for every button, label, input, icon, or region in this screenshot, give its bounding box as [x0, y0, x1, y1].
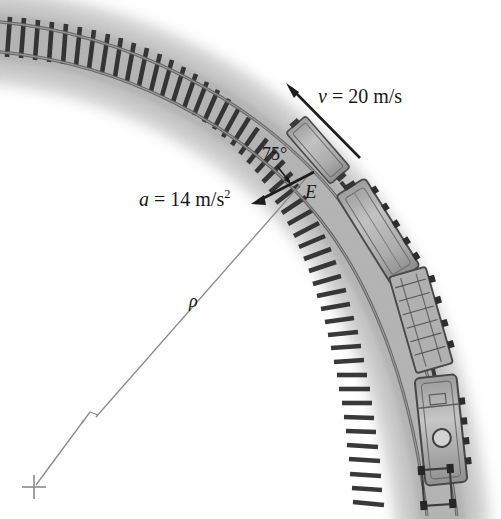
- velocity-symbol: v: [318, 85, 327, 107]
- radius-break-marker: [82, 412, 98, 423]
- angle-label: 75°: [262, 145, 287, 163]
- point-e-label: E: [305, 182, 317, 201]
- radius-line-lower: [36, 420, 84, 485]
- velocity-equals: =: [327, 85, 348, 107]
- physics-figure-train-curve: v = 20 m/s a = 14 m/s2 75° E ρ: [0, 0, 501, 519]
- radius-line-group: [22, 170, 313, 499]
- angle-value: 75: [262, 144, 280, 164]
- acceleration-equals: =: [149, 188, 170, 210]
- velocity-label: v = 20 m/s: [318, 86, 402, 106]
- acceleration-label: a = 14 m/s2: [139, 189, 230, 209]
- acceleration-unit-exponent: 2: [224, 187, 230, 201]
- acceleration-symbol: a: [139, 188, 149, 210]
- velocity-value: 20: [348, 85, 368, 107]
- acceleration-unit: m/s: [195, 188, 224, 210]
- radius-rho-label: ρ: [189, 292, 198, 310]
- figure-canvas: [0, 0, 501, 519]
- center-of-curvature-marker: [22, 475, 46, 499]
- acceleration-value: 14: [170, 188, 190, 210]
- degree-sign-icon: °: [280, 144, 287, 164]
- locomotive-window: [432, 428, 452, 448]
- velocity-unit: m/s: [373, 85, 402, 107]
